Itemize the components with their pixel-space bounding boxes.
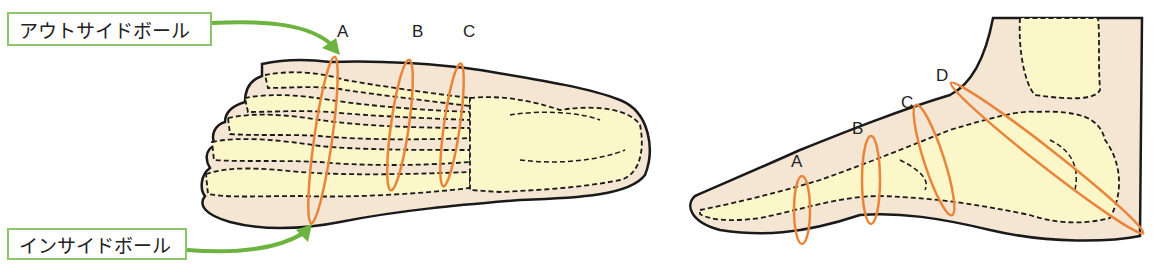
outside-ball-callout: アウトサイドボール — [7, 12, 212, 46]
outside-ball-arrow — [212, 22, 332, 45]
inside-ball-arrow — [187, 232, 305, 251]
side-section-label-c: C — [901, 93, 913, 113]
side-section-label-a: A — [791, 152, 802, 172]
outside-ball-label: アウトサイドボール — [19, 16, 190, 43]
inside-ball-callout: インサイドボール — [7, 228, 187, 260]
top-section-label-a: A — [337, 22, 348, 42]
side-section-label-b: B — [852, 119, 863, 139]
top-section-label-c: C — [463, 22, 475, 42]
side-section-label-d: D — [936, 66, 948, 86]
top-section-label-b: B — [412, 22, 423, 42]
inside-ball-label: インサイドボール — [19, 231, 171, 258]
top-view-foot — [202, 56, 650, 228]
side-view-foot — [690, 18, 1148, 244]
